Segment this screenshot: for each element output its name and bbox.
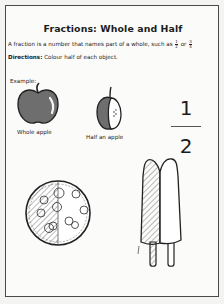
- whole-apple-icon: [14, 82, 62, 126]
- directions-text: Colour half of each object.: [44, 54, 118, 60]
- fraction-bar: [171, 126, 201, 127]
- worksheet-title: Fractions: Whole and Half: [6, 23, 220, 34]
- intro-connector: or: [181, 41, 187, 47]
- intro-fraction-three-quarters: 3 4: [189, 40, 192, 49]
- whole-apple-caption: Whole apple: [17, 129, 52, 135]
- directions-label: Directions:: [8, 54, 42, 60]
- directions: Directions: Colour half of each object.: [8, 54, 118, 60]
- fraction-denominator: 2: [166, 136, 206, 156]
- double-popsicle-icon: [140, 156, 192, 270]
- pizza-icon: [24, 177, 96, 249]
- half-apple-caption: Half an apple: [86, 134, 123, 140]
- worksheet-frame: Fractions: Whole and Half A fraction is …: [5, 5, 219, 297]
- intro-sentence: A fraction is a number that names part o…: [8, 41, 173, 47]
- half-apple-icon: [95, 86, 125, 132]
- one-half-fraction: 1 2: [166, 98, 206, 156]
- intro-text: A fraction is a number that names part o…: [8, 40, 220, 49]
- fraction-numerator: 1: [166, 98, 206, 118]
- fraction-denominator: 4: [189, 45, 192, 49]
- fraction-denominator: 2: [175, 45, 178, 49]
- intro-fraction-half: 1 2: [175, 40, 178, 49]
